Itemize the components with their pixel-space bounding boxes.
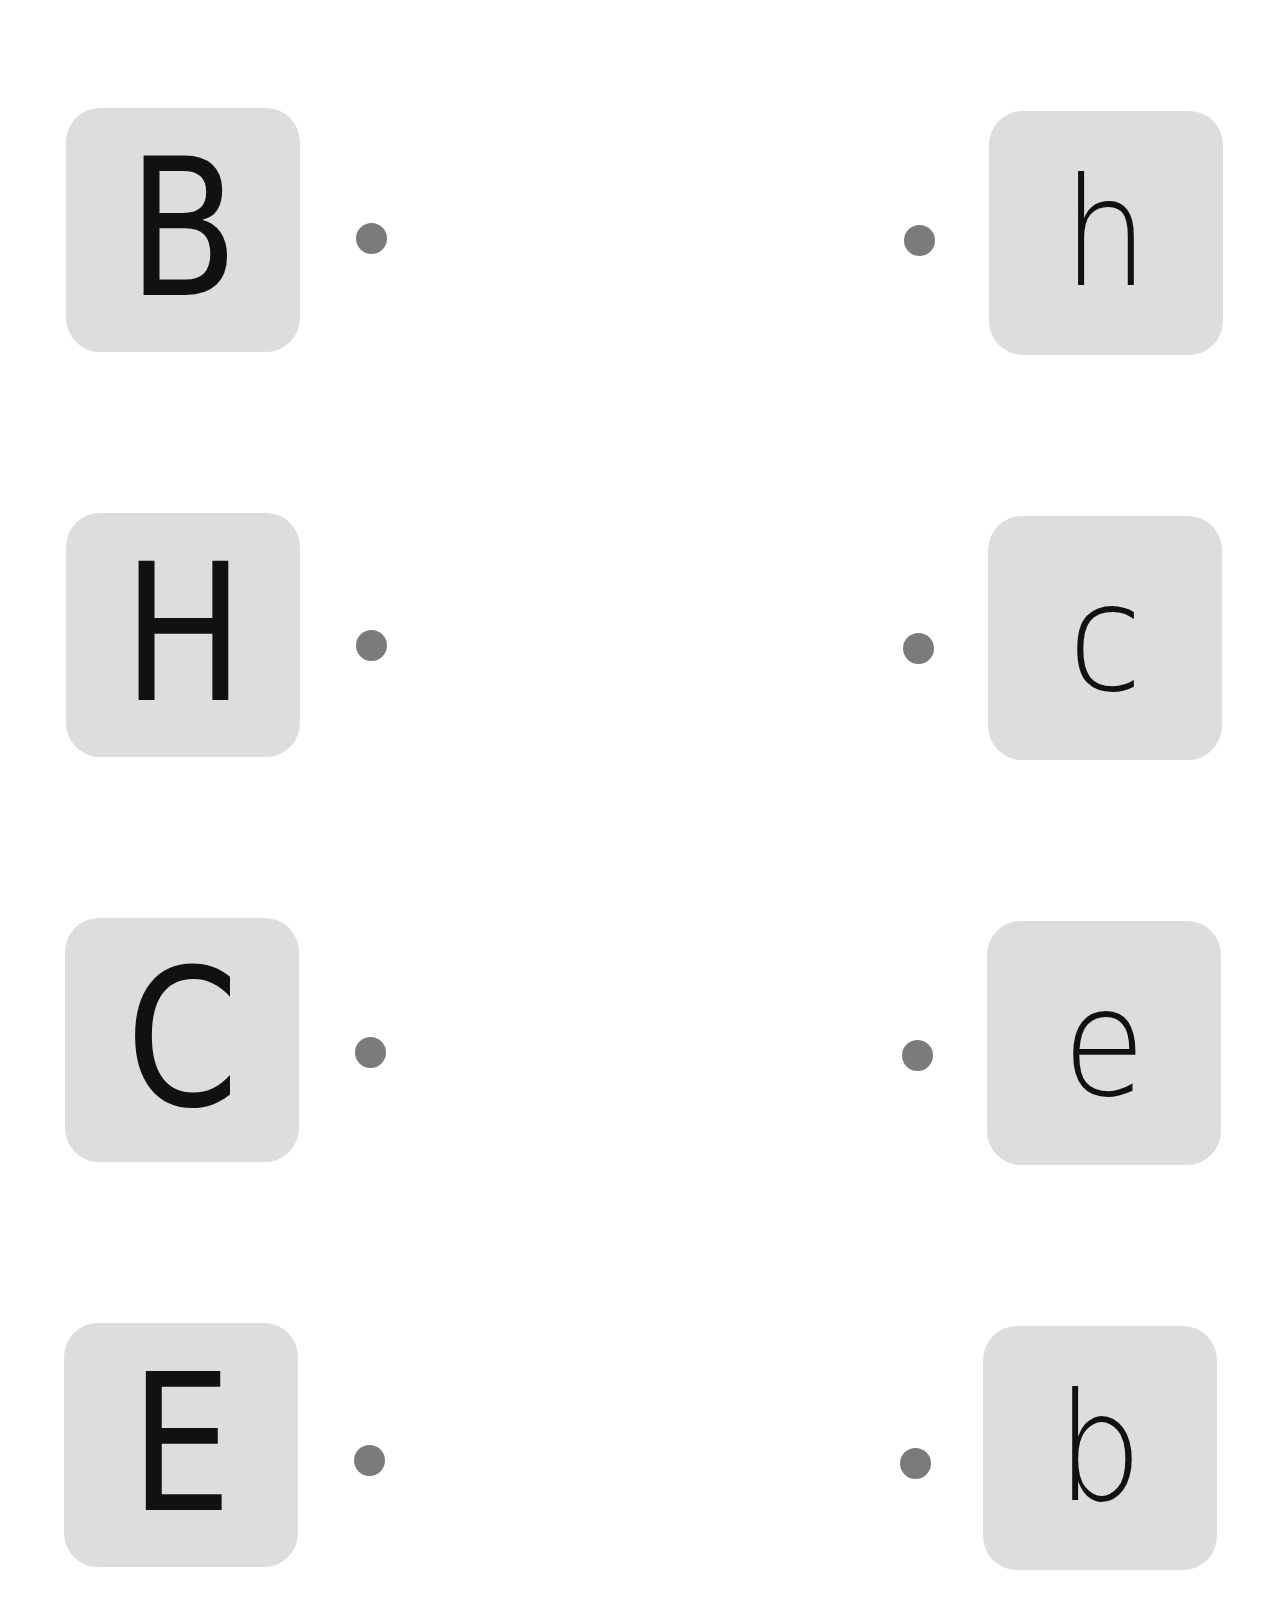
- right-connector-dot-2[interactable]: [903, 633, 934, 664]
- lowercase-card-2[interactable]: c: [988, 516, 1222, 760]
- letter-label: b: [1057, 1373, 1143, 1523]
- right-connector-dot-3[interactable]: [902, 1040, 933, 1071]
- lowercase-card-3[interactable]: e: [987, 921, 1221, 1165]
- uppercase-card-1[interactable]: B: [66, 108, 300, 352]
- uppercase-card-4[interactable]: E: [64, 1323, 298, 1567]
- letter-label: B: [128, 135, 239, 325]
- letter-label: H: [122, 540, 243, 730]
- right-connector-dot-1[interactable]: [904, 225, 935, 256]
- lowercase-card-1[interactable]: h: [989, 111, 1223, 355]
- letter-label: h: [1063, 158, 1149, 308]
- left-connector-dot-3[interactable]: [355, 1037, 386, 1068]
- left-connector-dot-1[interactable]: [356, 223, 387, 254]
- lowercase-card-4[interactable]: b: [983, 1326, 1217, 1570]
- letter-label: c: [1068, 563, 1142, 713]
- left-connector-dot-2[interactable]: [356, 630, 387, 661]
- letter-label: C: [126, 945, 239, 1135]
- uppercase-card-2[interactable]: H: [66, 513, 300, 757]
- letter-label: E: [130, 1350, 232, 1540]
- left-connector-dot-4[interactable]: [354, 1445, 385, 1476]
- uppercase-card-3[interactable]: C: [65, 918, 299, 1162]
- letter-label: e: [1062, 968, 1145, 1118]
- right-connector-dot-4[interactable]: [900, 1448, 931, 1479]
